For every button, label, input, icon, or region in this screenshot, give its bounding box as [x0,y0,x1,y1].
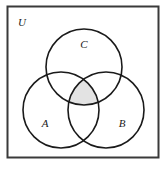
venn-diagram-figure: U C A B [0,0,167,171]
venn-diagram-canvas: U C A B [0,0,167,171]
set-label-a: A [41,117,49,129]
set-label-c: C [80,38,88,50]
set-label-b: B [119,117,126,129]
universe-label: U [18,16,27,28]
